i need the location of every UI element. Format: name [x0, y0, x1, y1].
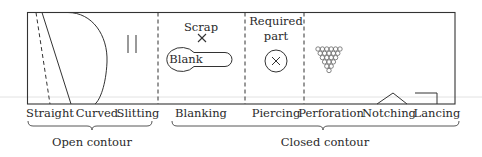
label-straight: Straight: [26, 108, 74, 120]
slitting-icon: [128, 35, 136, 53]
sheet-outline: [28, 13, 456, 105]
label-lancing: Lancing: [414, 108, 461, 120]
required-part-icon: [265, 50, 287, 72]
notching-icon: [377, 93, 407, 104]
shearing-operations-diagram: Scrap Blank Required part Straight Curve…: [0, 0, 482, 157]
perforation-holes-icon: [316, 47, 342, 73]
label-slitting: Slitting: [117, 108, 160, 120]
label-blanking: Blanking: [175, 108, 227, 120]
blank-label: Blank: [169, 54, 202, 66]
label-perforation: Perforation: [298, 108, 364, 120]
required-part-label-line2: part: [264, 31, 288, 43]
label-curved: Curved: [76, 108, 118, 120]
required-part-label-line1: Required: [249, 16, 303, 28]
scrap-label: Scrap: [184, 22, 218, 34]
curved-cut-icon: [68, 13, 107, 105]
group-closed-contour: Closed contour: [281, 137, 369, 149]
scrap-cross-icon: [198, 34, 206, 42]
straight-cut-icon: [36, 13, 71, 105]
closed-contour-brace: [172, 121, 459, 130]
group-open-contour: Open contour: [52, 137, 132, 149]
lancing-icon: [415, 93, 437, 104]
label-piercing: Piercing: [252, 108, 301, 120]
open-contour-brace: [28, 121, 152, 130]
diagram-graphics: [0, 0, 482, 157]
label-notching: Notching: [362, 108, 416, 120]
